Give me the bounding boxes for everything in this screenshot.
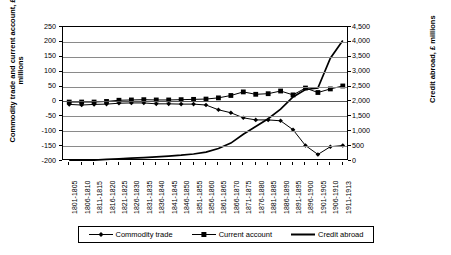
- x-axis-tick-label: 1911-1913: [345, 181, 352, 214]
- x-axis-tick: [304, 162, 305, 165]
- plot-area: [62, 26, 348, 160]
- x-axis-tick-label: 1856-1860: [208, 181, 215, 214]
- x-axis-tick: [93, 162, 94, 165]
- chart-container: Commodity trade and current account, £ m…: [0, 0, 451, 255]
- x-axis-tick-label: 1876-1880: [258, 181, 265, 214]
- legend: Commodity tradeCurrent accountCredit abr…: [78, 226, 374, 243]
- right-axis-tick-label: 0: [352, 156, 386, 165]
- x-axis-tick-label: 1826-1830: [133, 181, 140, 214]
- left-axis-tick-label: 250: [26, 22, 56, 31]
- right-axis-tick-label: 2,000: [352, 96, 386, 105]
- x-axis-tick: [130, 162, 131, 165]
- x-axis-tick-label: 1831-1835: [146, 181, 153, 214]
- x-axis-tick: [280, 162, 281, 165]
- left-axis-tick-label: -150: [26, 141, 56, 150]
- x-axis-tick: [193, 162, 194, 165]
- right-axis-tick-label: 3,500: [352, 51, 386, 60]
- x-axis-tick-label: 1881-1885: [270, 181, 277, 214]
- data-point-marker: [228, 93, 233, 98]
- left-axis-tick-label: -100: [26, 126, 56, 135]
- x-axis-tick-label: 1816-1820: [109, 181, 116, 214]
- x-axis-tick: [267, 162, 268, 165]
- left-axis-tick-label: -50: [26, 111, 56, 120]
- x-axis-tick: [217, 162, 218, 165]
- gridline: [63, 116, 347, 117]
- right-axis-tick-label: 1,500: [352, 111, 386, 120]
- x-axis-tick-label: 1901-1905: [320, 181, 327, 214]
- right-axis-tick-label: 500: [352, 141, 386, 150]
- x-axis-tick: [242, 162, 243, 165]
- data-point-marker: [204, 103, 209, 108]
- x-axis-tick-label: 1896-1900: [307, 181, 314, 214]
- left-axis-tick: [59, 160, 62, 161]
- x-axis-tick-label: 1836-1840: [158, 181, 165, 214]
- x-axis-tick: [255, 162, 256, 165]
- x-axis-tick-label: 1801-1805: [71, 181, 78, 214]
- x-axis-tick: [292, 162, 293, 165]
- x-axis-tick-label: 1841-1845: [171, 181, 178, 214]
- x-axis-tick: [342, 162, 343, 165]
- x-axis-tick: [143, 162, 144, 165]
- legend-label: Commodity trade: [116, 230, 173, 239]
- x-axis-tick-label: 1906-1910: [332, 181, 339, 214]
- gridline: [63, 87, 347, 88]
- data-point-marker: [216, 95, 221, 100]
- x-axis-tick: [205, 162, 206, 165]
- x-axis-tick: [155, 162, 156, 165]
- gridline: [63, 42, 347, 43]
- x-axis-tick-label: 1821-1825: [121, 181, 128, 214]
- x-axis-tick: [106, 162, 107, 165]
- legend-swatch-square-icon: [192, 230, 216, 239]
- data-point-marker: [191, 102, 196, 107]
- data-point-marker: [229, 110, 234, 115]
- right-axis-tick-label: 4,500: [352, 22, 386, 31]
- right-axis-tick-label: 1,000: [352, 126, 386, 135]
- x-axis-tick: [317, 162, 318, 165]
- gridline: [63, 72, 347, 73]
- x-axis-tick-label: 1886-1890: [283, 181, 290, 214]
- data-point-marker: [179, 102, 184, 107]
- left-axis-tick-label: 200: [26, 36, 56, 45]
- left-axis-tick-label: 50: [26, 81, 56, 90]
- x-axis-tick-label: 1851-1855: [196, 181, 203, 214]
- data-point-marker: [253, 118, 258, 123]
- x-axis-tick: [168, 162, 169, 165]
- right-axis-tick-label: 2,500: [352, 81, 386, 90]
- left-axis-tick-label: 0: [26, 96, 56, 105]
- x-axis-tick-label: 1811-1815: [96, 181, 103, 214]
- right-axis-tick-label: 4,000: [352, 36, 386, 45]
- x-axis-tick: [68, 162, 69, 165]
- x-axis-tick-label: 1861-1865: [220, 181, 227, 214]
- right-axis-tick-label: 3,000: [352, 66, 386, 75]
- x-axis-tick-label: 1871-1875: [245, 181, 252, 214]
- right-axis-title: Credit abroad, £ millions: [429, 0, 437, 134]
- legend-label: Current account: [219, 230, 272, 239]
- data-point-marker: [266, 91, 271, 96]
- data-point-marker: [253, 92, 258, 97]
- legend-swatch-diamond-icon: [89, 230, 113, 239]
- data-point-marker: [241, 90, 246, 95]
- legend-item[interactable]: Current account: [192, 230, 272, 239]
- legend-item[interactable]: Credit abroad: [291, 230, 363, 239]
- data-point-marker: [216, 107, 221, 112]
- gridline: [63, 146, 347, 147]
- x-axis-tick-label: 1846-1850: [183, 181, 190, 214]
- legend-item[interactable]: Commodity trade: [89, 230, 173, 239]
- data-point-marker: [278, 89, 283, 94]
- data-point-marker: [316, 90, 321, 95]
- x-axis-tick: [118, 162, 119, 165]
- x-axis-tick: [329, 162, 330, 165]
- gridline: [63, 101, 347, 102]
- legend-label: Credit abroad: [318, 230, 363, 239]
- gridline: [63, 57, 347, 58]
- x-axis-labels: 1801-18051806-18101811-18151816-18201821…: [62, 162, 348, 220]
- left-axis-tick-label: 100: [26, 66, 56, 75]
- left-axis-title: Commodity trade and current account, £ m…: [9, 0, 26, 145]
- x-axis-tick-label: 1866-1870: [233, 181, 240, 214]
- left-axis-tick-label: 150: [26, 51, 56, 60]
- x-axis-tick-label: 1891-1895: [295, 181, 302, 214]
- x-axis-tick: [180, 162, 181, 165]
- gridline: [63, 131, 347, 132]
- x-axis-tick-label: 1806-1810: [84, 181, 91, 214]
- series-lines: [63, 27, 349, 161]
